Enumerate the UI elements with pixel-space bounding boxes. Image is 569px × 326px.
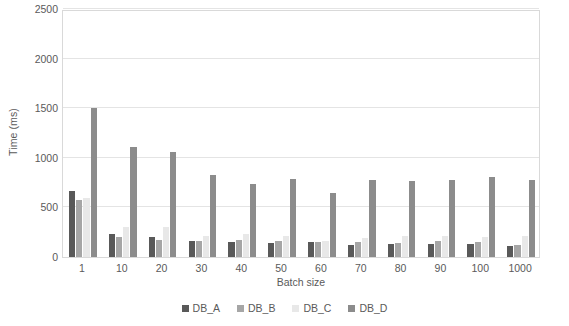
bar-db_b-40[interactable] — [236, 240, 242, 257]
x-axis-tick-label: 20 — [142, 261, 182, 275]
bar-group — [461, 11, 501, 257]
bar-chart: Time (ms) 05001000150020002500 110203040… — [0, 0, 569, 326]
bar-db_d-10[interactable] — [130, 147, 136, 257]
bar-db_c-70[interactable] — [362, 238, 368, 257]
bar-db_b-1[interactable] — [76, 200, 82, 257]
bar-db_b-20[interactable] — [156, 240, 162, 257]
y-axis-tick-label: 2500 — [14, 4, 58, 15]
x-axis-tick-label: 60 — [301, 261, 341, 275]
bar-db_c-1000[interactable] — [522, 236, 528, 257]
bar-db_d-80[interactable] — [409, 181, 415, 257]
legend-swatch-icon — [292, 305, 299, 312]
bar-group — [342, 11, 382, 257]
plot-area — [62, 10, 540, 258]
bar-db_c-100[interactable] — [482, 237, 488, 257]
chart-legend: DB_ADB_BDB_CDB_D — [0, 303, 569, 314]
x-axis-tick-labels: 11020304050607080901001000 — [62, 261, 540, 277]
bar-db_c-60[interactable] — [322, 241, 328, 257]
bar-db_a-1[interactable] — [69, 191, 75, 257]
bar-db_a-20[interactable] — [149, 237, 155, 257]
legend-label: DB_C — [303, 303, 331, 314]
bars-layer — [63, 11, 539, 257]
legend-item-db_b[interactable]: DB_B — [237, 303, 275, 314]
x-axis-tick-label: 100 — [460, 261, 500, 275]
legend-swatch-icon — [237, 305, 244, 312]
bar-db_a-10[interactable] — [109, 234, 115, 257]
bar-group — [382, 11, 422, 257]
bar-db_b-60[interactable] — [315, 242, 321, 257]
bar-db_b-100[interactable] — [475, 242, 481, 257]
bar-db_d-30[interactable] — [210, 175, 216, 257]
bar-db_b-50[interactable] — [275, 241, 281, 257]
bar-db_a-100[interactable] — [467, 244, 473, 257]
bar-db_d-60[interactable] — [330, 193, 336, 257]
legend-item-db_c[interactable]: DB_C — [292, 303, 331, 314]
x-axis-tick-label: 90 — [421, 261, 461, 275]
bar-db_c-80[interactable] — [402, 236, 408, 257]
bar-group — [501, 11, 541, 257]
bar-db_a-1000[interactable] — [507, 246, 513, 257]
bar-db_a-40[interactable] — [228, 242, 234, 257]
bar-group — [422, 11, 462, 257]
y-axis-tick-label: 1000 — [14, 153, 58, 164]
legend-swatch-icon — [348, 305, 355, 312]
bar-db_d-40[interactable] — [250, 184, 256, 257]
x-axis-title: Batch size — [62, 276, 540, 288]
x-axis-tick-label: 10 — [102, 261, 142, 275]
bar-db_a-50[interactable] — [268, 243, 274, 257]
bar-db_d-20[interactable] — [170, 152, 176, 257]
bar-db_d-50[interactable] — [290, 179, 296, 257]
y-axis-tick-label: 1500 — [14, 103, 58, 114]
bar-db_c-40[interactable] — [243, 234, 249, 257]
x-axis-tick-label: 80 — [381, 261, 421, 275]
bar-db_a-90[interactable] — [428, 244, 434, 257]
y-axis-tick-label: 2000 — [14, 54, 58, 65]
bar-db_c-10[interactable] — [123, 227, 129, 257]
y-axis-tick-label: 500 — [14, 202, 58, 213]
bar-db_c-20[interactable] — [163, 227, 169, 257]
bar-group — [103, 11, 143, 257]
bar-group — [63, 11, 103, 257]
bar-db_c-50[interactable] — [283, 236, 289, 257]
bar-db_d-100[interactable] — [489, 177, 495, 257]
y-axis-tick-labels: 05001000150020002500 — [14, 0, 58, 326]
bar-group — [302, 11, 342, 257]
x-axis-tick-label: 30 — [182, 261, 222, 275]
x-axis-tick-label: 1 — [62, 261, 102, 275]
legend-label: DB_D — [359, 303, 387, 314]
bar-group — [222, 11, 262, 257]
bar-db_b-80[interactable] — [395, 243, 401, 257]
bar-db_b-90[interactable] — [435, 241, 441, 257]
legend-label: DB_B — [248, 303, 275, 314]
bar-db_c-90[interactable] — [442, 236, 448, 257]
legend-item-db_d[interactable]: DB_D — [348, 303, 387, 314]
y-axis-tick-label: 0 — [14, 252, 58, 263]
bar-db_b-1000[interactable] — [514, 245, 520, 257]
bar-db_b-70[interactable] — [355, 242, 361, 257]
bar-db_a-30[interactable] — [189, 241, 195, 257]
bar-db_d-1[interactable] — [91, 108, 97, 257]
bar-db_c-1[interactable] — [83, 198, 89, 257]
legend-label: DB_A — [193, 303, 220, 314]
bar-db_a-70[interactable] — [348, 245, 354, 257]
legend-item-db_a[interactable]: DB_A — [182, 303, 220, 314]
legend-swatch-icon — [182, 305, 189, 312]
bar-db_a-80[interactable] — [388, 244, 394, 257]
bar-db_d-70[interactable] — [369, 180, 375, 257]
x-axis-tick-label: 1000 — [500, 261, 540, 275]
bar-db_d-90[interactable] — [449, 180, 455, 257]
gridline — [63, 8, 539, 9]
bar-db_a-60[interactable] — [308, 242, 314, 257]
x-axis-tick-label: 70 — [341, 261, 381, 275]
bar-db_c-30[interactable] — [203, 236, 209, 257]
x-axis-tick-label: 40 — [221, 261, 261, 275]
bar-db_b-30[interactable] — [196, 241, 202, 257]
bar-group — [143, 11, 183, 257]
bar-db_d-1000[interactable] — [529, 180, 535, 257]
bar-group — [262, 11, 302, 257]
bar-db_b-10[interactable] — [116, 237, 122, 257]
x-axis-tick-label: 50 — [261, 261, 301, 275]
bar-group — [183, 11, 223, 257]
